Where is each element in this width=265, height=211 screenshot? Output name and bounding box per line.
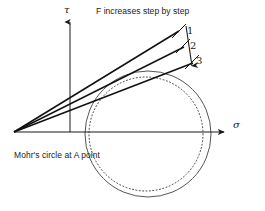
envelope-line-2	[14, 47, 184, 132]
envelope-line-label-1: 1	[187, 26, 193, 36]
envelope-line-label-2: 2	[190, 41, 196, 51]
axis-label-tau: τ	[64, 5, 70, 15]
mohr-circle-solid	[85, 71, 211, 197]
envelope-line-1	[14, 31, 179, 132]
annotation-f-increases: F increases step by step	[96, 7, 189, 16]
envelope-line-label-3: 3	[196, 56, 202, 66]
mohr-circle-diagram: F increases step by step Mohr's circle a…	[0, 0, 265, 211]
envelope-line-3	[14, 63, 193, 132]
diagram-canvas	[0, 0, 265, 211]
caption-mohr-circle: Mohr's circle at A point	[14, 151, 100, 160]
mohr-circle-dotted	[89, 77, 203, 191]
axis-label-sigma: σ	[233, 120, 240, 130]
tick-line-1	[172, 24, 186, 38]
